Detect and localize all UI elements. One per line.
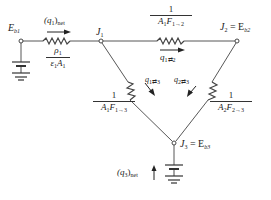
arrow-q3net-icon <box>152 165 157 180</box>
wire-r23-j3 <box>176 100 208 141</box>
wire-r13-j3 <box>130 100 172 141</box>
r1-numerator: ρ1 <box>46 46 70 57</box>
arrow-q23-icon <box>187 86 196 97</box>
label-q3net: (q3)net <box>117 168 138 178</box>
q1net-tail: net <box>58 20 65 26</box>
r13-numerator: 1 <box>93 91 135 101</box>
resistor-r1 <box>43 38 70 44</box>
r12-denominator: A1F1→2 <box>150 15 192 27</box>
resistance-r13: 1 A1F1→3 <box>93 91 135 113</box>
r1-denominator: ε1A1 <box>46 57 70 69</box>
label-j2: J2 = Eb2 <box>220 22 250 33</box>
resistance-r23: 1 A2F2→3 <box>210 91 252 113</box>
battery-j3-icon <box>165 165 183 183</box>
j3-eq-sub: b3 <box>204 144 210 150</box>
q23-sub: 2⇄3 <box>178 79 189 85</box>
node-eb1 <box>19 39 23 43</box>
label-j1: J1 <box>96 27 103 38</box>
resistor-r12 <box>157 38 184 44</box>
arrow-q1net-icon <box>47 30 71 35</box>
q13-sub: 1⇄3 <box>149 79 160 85</box>
resistance-r12: 1 A1F1→2 <box>150 5 192 27</box>
eb1-sub: b1 <box>14 28 20 34</box>
q1net-open: (q <box>44 15 52 25</box>
node-j3 <box>172 141 176 145</box>
j2-eq-sub: b2 <box>244 27 250 33</box>
q12-sub: 1⇄2 <box>165 57 176 63</box>
wire-j1-r13 <box>102 43 128 82</box>
label-eb1: Eb1 <box>8 23 20 34</box>
node-j2 <box>235 39 239 43</box>
label-q12: q1⇄2 <box>160 53 176 63</box>
r23-denominator: A2F2→3 <box>210 101 252 113</box>
r23-numerator: 1 <box>210 91 252 101</box>
r12-numerator: 1 <box>150 5 192 15</box>
j3-eq: = E <box>187 138 204 149</box>
j2-eq: = E <box>227 21 244 32</box>
battery-eb1-icon <box>12 62 30 80</box>
resistance-r1: ρ1 ε1A1 <box>46 46 70 69</box>
node-j1 <box>99 39 103 43</box>
r13-denominator: A1F1→3 <box>93 101 135 113</box>
wire-j2-r23 <box>212 43 236 82</box>
q3net-open: (q <box>117 167 125 177</box>
label-q23: q2⇄3 <box>174 76 189 85</box>
label-q13: q1⇄3 <box>145 76 160 85</box>
j1-sub: 1 <box>100 32 103 38</box>
q3net-tail: net <box>131 172 138 178</box>
label-j3: J3 = Eb3 <box>180 139 210 150</box>
label-q1net: (q1)net <box>44 16 65 26</box>
